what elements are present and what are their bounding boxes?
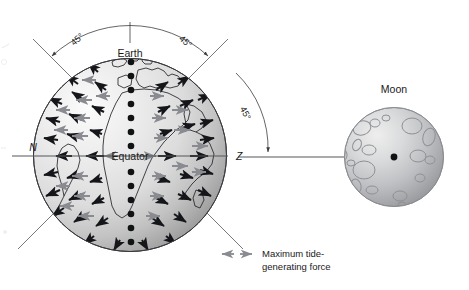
angle-label-lower-right: 45° [238,105,253,122]
diagram-canvas: 45° 45° Earth 45° [0,0,469,290]
moon-center-dot [391,154,398,161]
legend-label-line1: Maximum tide- [262,248,324,259]
moon-globe [341,108,444,209]
tide-diagram-figure: 45° 45° Earth 45° [0,0,469,290]
legend: Maximum tide- generating force [222,248,331,272]
legend-label-line2: generating force [262,261,331,272]
earth-label: Earth [117,47,142,59]
angle-label-left: 45° [69,31,86,48]
zenith-axis-label: Z [235,150,243,162]
north-axis-label: N [29,141,37,153]
page-artifacts [1,44,9,234]
angle-label-right: 45° [177,33,194,50]
moon-label: Moon [381,83,407,95]
equator-label: Equator [112,150,149,162]
